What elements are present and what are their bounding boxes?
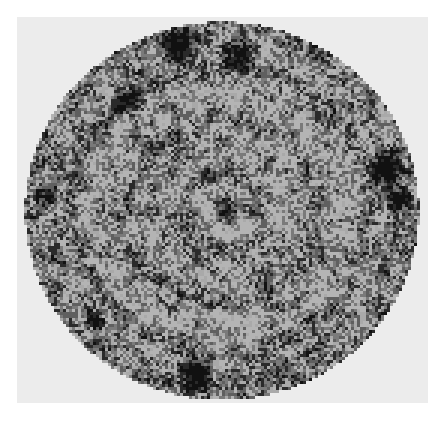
image-stage: [0, 0, 446, 421]
speckle-disc: [0, 0, 446, 421]
